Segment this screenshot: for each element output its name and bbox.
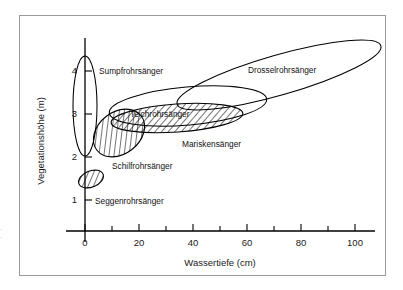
ellipse-seggenrohrsaenger bbox=[76, 167, 106, 192]
y-axis-title: Vegetationshöhe (m) bbox=[35, 97, 46, 185]
page-margin-scrap: · · bbox=[0, 225, 14, 241]
series-label-seggenrohrsaenger: Seggenrohrsänger bbox=[95, 196, 164, 206]
x-tick-label-0: 0 bbox=[82, 237, 87, 248]
x-tick-label-60: 60 bbox=[242, 237, 253, 248]
series-label-sumpfrohrsaenger: Sumpfrohrsänger bbox=[99, 66, 163, 76]
x-axis-title: Wassertiefe (cm) bbox=[184, 257, 255, 268]
x-tick-label-80: 80 bbox=[296, 237, 307, 248]
x-tick-labels: 0 20 40 60 80 100 bbox=[82, 237, 363, 248]
series-label-mariskensaenger: Mariskensänger bbox=[182, 139, 241, 149]
x-tick-label-40: 40 bbox=[188, 237, 199, 248]
x-tick-label-100: 100 bbox=[347, 237, 363, 248]
chart-frame: 0 20 40 60 80 100 1 2 3 4 Wassertiefe (c… bbox=[19, 15, 386, 276]
y-tick-label-2: 2 bbox=[72, 151, 77, 162]
series-label-teichrohrsaenger: Teichrohrsänger bbox=[130, 109, 190, 119]
habitat-ellipse-chart: 0 20 40 60 80 100 1 2 3 4 Wassertiefe (c… bbox=[20, 16, 385, 275]
y-tick-label-3: 3 bbox=[72, 108, 77, 119]
x-axis-ticks bbox=[85, 224, 355, 231]
series-label-schilfrohrsaenger: Schilfrohrsänger bbox=[112, 161, 173, 171]
series-label-drosselrohrsaenger: Drosselrohrsänger bbox=[248, 65, 316, 75]
margin-scrap-line-1: · bbox=[0, 225, 14, 233]
y-tick-label-1: 1 bbox=[72, 194, 77, 205]
x-tick-label-20: 20 bbox=[134, 237, 145, 248]
figure-container: · · bbox=[0, 0, 403, 290]
margin-scrap-line-2: · bbox=[0, 233, 14, 241]
